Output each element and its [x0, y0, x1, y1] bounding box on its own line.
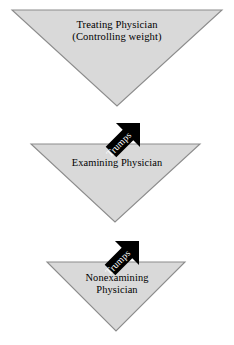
diagram-canvas: Trumps Trumps Treating Physician (Contro…	[0, 0, 234, 345]
diagram-shapes: Trumps Trumps	[0, 0, 234, 345]
triangle-treating-physician	[12, 10, 222, 106]
